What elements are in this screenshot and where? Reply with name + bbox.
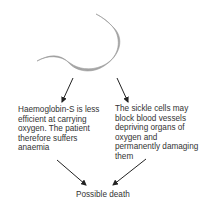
sickle-cell-icon: [37, 14, 120, 71]
arrow-left-upper: [62, 78, 73, 102]
final-outcome-text: Possible death: [76, 190, 146, 200]
anaemia-outcome-text: Haemoglobin-S is less efficient at carry…: [18, 105, 102, 153]
arrow-right-lower: [113, 159, 146, 185]
arrow-left-lower: [57, 160, 86, 185]
blockage-outcome-text: The sickle cells may block blood vessels…: [115, 104, 201, 162]
arrow-right-upper: [117, 78, 128, 102]
sickle-cell-diagram: [0, 0, 201, 205]
